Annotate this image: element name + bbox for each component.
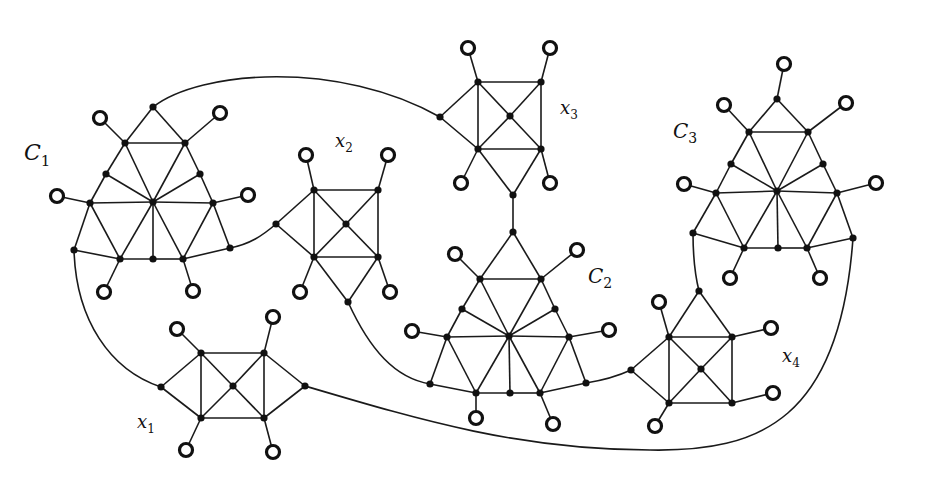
edge [90,174,106,203]
curve-c1top-x3l [153,77,440,117]
vertex-x1_c [229,382,236,389]
edge [631,337,669,370]
vertex-c1_c [149,198,156,205]
edge [430,337,447,384]
terminal-ring-icon [462,42,475,55]
edge [749,99,777,132]
edge [201,353,233,386]
edge [153,202,213,203]
edge [541,279,555,309]
curve-c2br-x4l [586,370,631,383]
label-C2: C2 [588,264,612,291]
label-C1: C1 [24,140,50,170]
edge [716,191,777,193]
vertex-x2_br [374,253,381,260]
terminal-ring-icon [765,322,778,335]
vertex-c2_c [505,332,512,339]
edge [440,117,478,149]
vertex-c3_top [773,95,780,102]
edge [569,337,586,383]
edge [509,336,510,393]
terminal-ring-icon [814,272,827,285]
terminal-ring-icon [180,444,193,457]
edge [125,107,153,143]
edge [777,99,808,132]
edge [90,202,153,203]
curve-c1bl-x1l [74,250,161,387]
terminal-ring-icon [171,323,184,336]
edge [233,386,264,418]
vertex-c1_b1 [116,255,123,262]
edge [183,248,230,259]
vertex-x1_tr [260,349,267,356]
vertex-c1_bl [70,246,77,253]
edge [478,149,513,195]
vertex-c1_l [86,199,93,206]
vertex-c1_ur [181,139,188,146]
edge [185,143,200,174]
curve-c1br-x2l [230,224,276,248]
edge [513,232,541,279]
terminal-ring-icon [678,178,691,191]
vertex-x1_bl [197,414,204,421]
vertex-x2_tl [310,186,317,193]
vertex-c2_l [443,333,450,340]
vertex-x4_br [728,399,735,406]
edge [701,369,732,403]
edge [106,143,125,174]
label-x1: x1 [137,411,155,436]
vertex-x3_tl [474,78,481,85]
edge [430,384,476,393]
edge [701,337,732,369]
edge [90,203,120,259]
vertex-x3_b [509,191,516,198]
vertex-x1_l [157,383,164,390]
edge [462,279,480,309]
vertex-c1_ml [102,170,109,177]
terminal-ring-icon [767,387,780,400]
vertex-x3_l [436,113,443,120]
terminal-ring-icon [187,285,200,298]
edge [777,191,837,193]
edge [480,232,513,279]
terminal-ring-icon [384,286,397,299]
edge [478,116,510,149]
terminal-ring-icon [406,325,419,338]
vertex-c1_ul [121,139,128,146]
label-C3: C3 [673,119,697,146]
vertex-c3_br [849,234,856,241]
terminal-ring-icon [840,97,853,110]
edge [510,82,541,116]
edge [447,336,509,337]
vertex-x3_c [506,112,513,119]
terminal-ring-icon [547,418,560,431]
terminal-ring-icon [724,272,737,285]
vertex-c2_ml [458,305,465,312]
edge [440,82,478,117]
vertex-c3_b3 [803,244,810,251]
edge [447,309,462,337]
vertex-x3_bl [474,145,481,152]
edge [447,337,476,393]
vertex-c2_bl [426,380,433,387]
edge [233,353,264,386]
vertex-c3_c [773,187,780,194]
curve-x2b-c2bl [348,302,430,384]
terminal-ring-icon [470,412,483,425]
vertex-c2_br [582,379,589,386]
edge [264,386,305,418]
vertex-c3_ml [727,160,734,167]
edge [669,369,701,403]
edge [153,107,185,143]
vertex-c1_b2 [149,255,156,262]
curve-x1r-x4bottom [305,238,853,450]
terminal-ring-icon [94,112,107,125]
edge [161,387,201,418]
edge [555,309,569,337]
terminal-ring-icon [778,58,791,71]
edge [777,191,778,248]
edge [540,383,586,393]
terminal-ring-icon [214,107,227,120]
terminal-ring-icon [544,42,557,55]
edge [200,174,213,203]
